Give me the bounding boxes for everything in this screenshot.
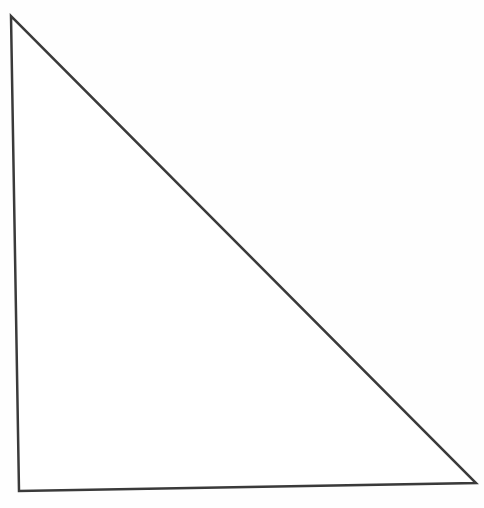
triangle-diagram (0, 0, 484, 508)
diagram-canvas (0, 0, 484, 508)
right-triangle (11, 16, 476, 491)
